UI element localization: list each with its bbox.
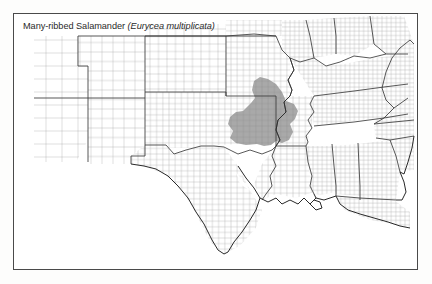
map-canvas bbox=[14, 14, 417, 269]
figure-caption: Many-ribbed Salamander (Eurycea multipli… bbox=[23, 21, 215, 31]
map-frame: Many-ribbed Salamander (Eurycea multipli… bbox=[13, 13, 418, 270]
figure-container: Many-ribbed Salamander (Eurycea multipli… bbox=[0, 0, 432, 284]
caption-scientific-name: (Eurycea multiplicata) bbox=[128, 21, 215, 31]
caption-common-name: Many-ribbed Salamander bbox=[23, 21, 125, 31]
range-map-svg bbox=[14, 14, 418, 270]
